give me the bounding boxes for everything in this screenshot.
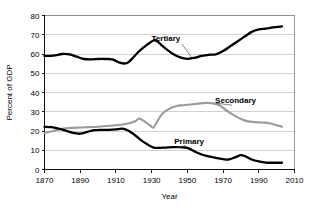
x-tick-label: 2010 [286,176,304,185]
x-tick-label: 1890 [71,176,89,185]
series-label-secondary: Secondary [215,96,256,105]
x-tick-label: 1970 [214,176,232,185]
x-tick-label: 1950 [178,176,196,185]
y-tick-label: 40 [31,89,40,98]
y-tick-label: 30 [31,108,40,117]
chart-figure: 01020304050607080 1870189019101930195019… [0,0,315,208]
y-axis-title: Percent of GDP [5,64,14,120]
series-label-primary: Primary [174,137,204,146]
x-axis-tick-labels: 18701890191019301950197019902010 [36,176,304,185]
y-tick-label: 80 [31,12,40,21]
y-tick-label: 10 [31,146,40,155]
x-tick-label: 1910 [107,176,125,185]
y-tick-label: 50 [31,69,40,78]
y-axis-tick-labels: 01020304050607080 [31,12,40,175]
x-axis-title: Year [161,192,178,201]
series-label-tertiary: Tertiary [152,34,181,43]
y-tick-label: 20 [31,127,40,136]
y-tick-label: 60 [31,50,40,59]
y-tick-label: 70 [31,31,40,40]
line-chart-canvas: 01020304050607080 1870189019101930195019… [0,0,315,208]
y-tick-label: 0 [35,166,40,175]
x-tick-label: 1990 [250,176,268,185]
x-tick-label: 1870 [36,176,54,185]
x-tick-label: 1930 [143,176,161,185]
